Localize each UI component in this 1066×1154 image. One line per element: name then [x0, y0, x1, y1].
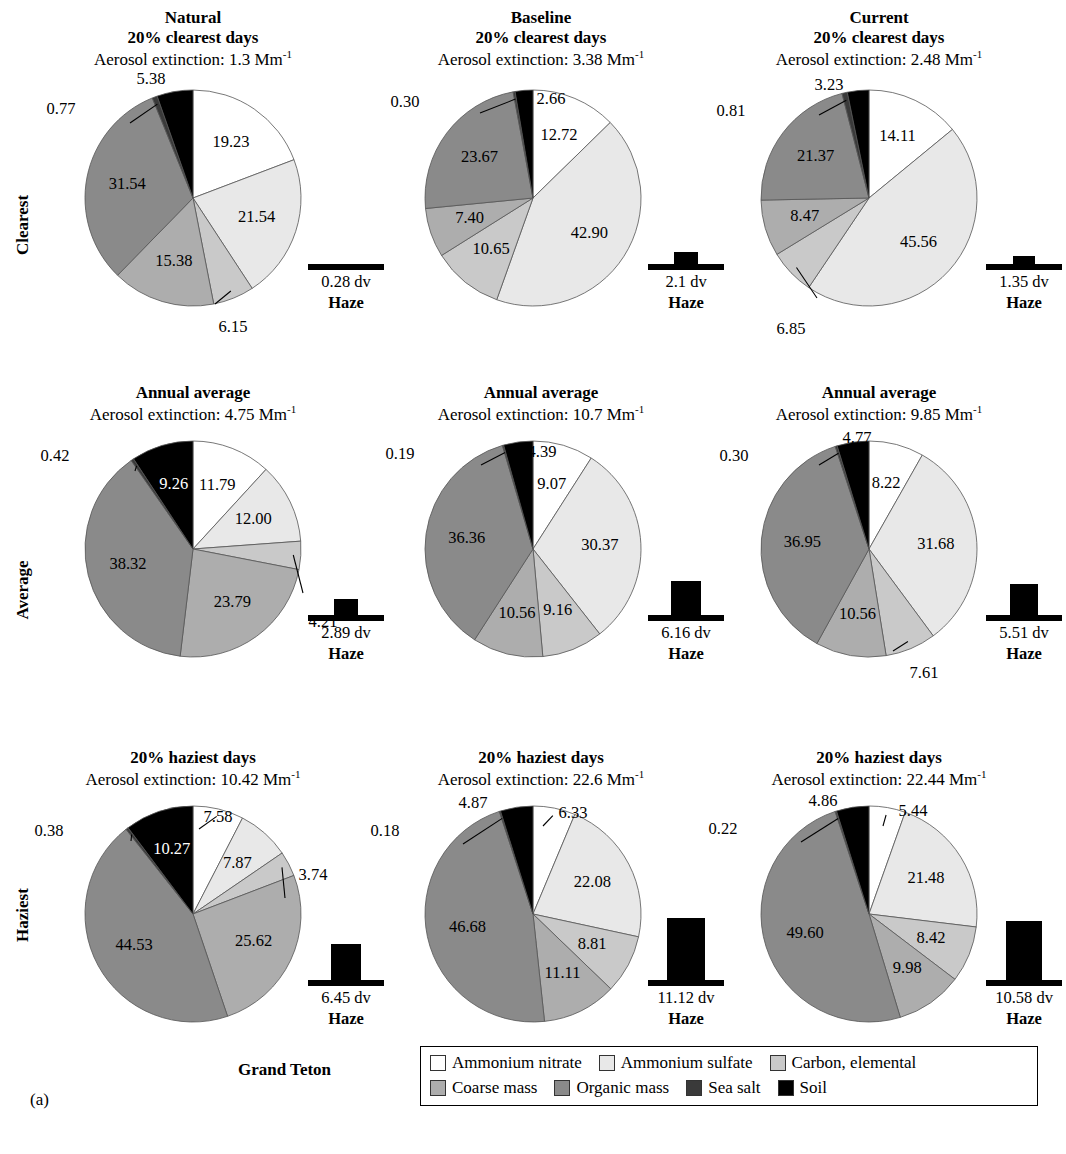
haze-baseline [986, 264, 1062, 270]
slice-value-label: 7.40 [455, 208, 484, 227]
slice-value-label: 31.54 [109, 174, 146, 193]
legend-swatch-icon [778, 1080, 794, 1096]
haze-bar [1010, 584, 1039, 615]
panel-titles: 20% haziest daysAerosol extinction: 10.4… [18, 748, 368, 790]
haze-indicator: 10.58 dvHaze [978, 921, 1066, 1029]
slice-value-label: 8.22 [872, 473, 901, 492]
slice-value-label: 19.23 [212, 132, 249, 151]
panel-extinction-title: Aerosol extinction: 4.75 Mm-1 [18, 403, 368, 425]
slice-value-label: 3.74 [299, 865, 328, 884]
haze-indicator: 1.35 dvHaze [978, 256, 1066, 313]
legend-swatch-icon [599, 1055, 615, 1071]
slice-value-label: 5.38 [137, 69, 166, 88]
slice-value-label: 36.95 [784, 532, 821, 551]
panel-days-title: Annual average [18, 383, 368, 403]
haze-baseline [986, 615, 1062, 621]
haze-bar-graphic [978, 256, 1066, 270]
panel-extinction-title: Aerosol extinction: 22.6 Mm-1 [366, 768, 716, 790]
legend-swatch-icon [686, 1080, 702, 1096]
slice-value-label: 0.30 [391, 92, 420, 111]
legend-item: Carbon, elemental [770, 1053, 917, 1073]
slice-value-label: 6.15 [219, 317, 248, 336]
slice-value-label: 10.56 [839, 604, 876, 623]
panel-extinction-title: Aerosol extinction: 10.42 Mm-1 [18, 768, 368, 790]
haze-bar [674, 252, 697, 264]
panel-titles: 20% haziest daysAerosol extinction: 22.4… [704, 748, 1054, 790]
slice-value-label: 6.85 [777, 319, 806, 338]
panel-extinction-title: Aerosol extinction: 22.44 Mm-1 [704, 768, 1054, 790]
haze-word-label: Haze [978, 293, 1066, 313]
panel-extinction-title: Aerosol extinction: 10.7 Mm-1 [366, 403, 716, 425]
pie-panel: Current20% clearest daysAerosol extincti… [704, 8, 1054, 70]
panel-titles: Baseline20% clearest daysAerosol extinct… [366, 8, 716, 70]
slice-value-label: 9.98 [893, 958, 922, 977]
slice-value-label: 21.48 [907, 868, 944, 887]
label-leader-line [131, 834, 132, 841]
slice-value-label: 3.23 [815, 75, 844, 94]
site-label: Grand Teton [238, 1060, 331, 1080]
slice-value-label: 5.44 [899, 801, 928, 820]
slice-value-label: 23.79 [214, 592, 251, 611]
haze-value: 1.35 dv [978, 272, 1066, 292]
legend-item: Coarse mass [430, 1078, 537, 1098]
legend-item: Organic mass [554, 1078, 669, 1098]
slice-value-label: 0.81 [717, 101, 746, 120]
legend-item: Soil [778, 1078, 827, 1098]
slice-value-label: 0.19 [386, 444, 415, 463]
legend-item: Ammonium sulfate [599, 1053, 753, 1073]
panel-extinction-title: Aerosol extinction: 2.48 Mm-1 [704, 48, 1054, 70]
slice-value-label: 9.26 [159, 474, 188, 493]
panel-days-title: 20% haziest days [18, 748, 368, 768]
slice-value-label: 0.22 [709, 819, 738, 838]
legend-label: Sea salt [708, 1078, 760, 1098]
haze-baseline [986, 980, 1062, 986]
slice-value-label: 7.61 [910, 663, 939, 682]
legend-swatch-icon [554, 1080, 570, 1096]
slice-value-label: 12.00 [235, 509, 272, 528]
haze-bar [334, 599, 359, 615]
slice-value-label: 10.56 [498, 603, 535, 622]
slice-value-label: 8.81 [578, 934, 607, 953]
slice-value-label: 25.62 [235, 931, 272, 950]
slice-value-label: 12.72 [540, 125, 577, 144]
slice-value-label: 10.27 [153, 839, 190, 858]
slice-value-label: 0.42 [41, 446, 70, 465]
pie-panel: 20% haziest daysAerosol extinction: 10.4… [18, 748, 368, 790]
pie-panel: 20% haziest daysAerosol extinction: 22.6… [366, 748, 716, 790]
slice-value-label: 7.87 [223, 853, 252, 872]
figure-tag: (a) [30, 1090, 49, 1110]
panel-titles: Annual averageAerosol extinction: 10.7 M… [366, 383, 716, 425]
legend-item: Sea salt [686, 1078, 760, 1098]
legend-row-1: Ammonium nitrateAmmonium sulfateCarbon, … [430, 1053, 1028, 1073]
pie-panel: 20% haziest daysAerosol extinction: 22.4… [704, 748, 1054, 790]
panel-extinction-title: Aerosol extinction: 3.38 Mm-1 [366, 48, 716, 70]
slice-value-label: 46.68 [449, 917, 486, 936]
haze-value: 5.51 dv [978, 623, 1066, 643]
legend-label: Coarse mass [452, 1078, 537, 1098]
slice-value-label: 0.30 [720, 446, 749, 465]
slice-value-label: 8.42 [917, 928, 946, 947]
slice-value-label: 15.38 [155, 251, 192, 270]
slice-value-label: 21.37 [797, 146, 834, 165]
slice-value-label: 8.47 [790, 206, 819, 225]
panel-titles: Annual averageAerosol extinction: 4.75 M… [18, 383, 368, 425]
panel-scenario-title: Natural [18, 8, 368, 28]
haze-bar-graphic [978, 921, 1066, 986]
slice-value-label: 0.77 [47, 99, 76, 118]
panel-days-title: Annual average [704, 383, 1054, 403]
slice-value-label: 23.67 [461, 147, 498, 166]
legend-swatch-icon [430, 1055, 446, 1071]
legend-label: Soil [800, 1078, 827, 1098]
haze-word-label: Haze [978, 644, 1066, 664]
slice-value-label: 4.39 [528, 442, 557, 461]
legend-swatch-icon [770, 1055, 786, 1071]
panel-titles: 20% haziest daysAerosol extinction: 22.6… [366, 748, 716, 790]
slice-value-label: 11.11 [545, 963, 581, 982]
slice-value-label: 31.68 [917, 534, 954, 553]
panel-days-title: 20% clearest days [704, 28, 1054, 48]
legend-label: Ammonium nitrate [452, 1053, 582, 1073]
slice-value-label: 4.87 [459, 793, 488, 812]
legend: Ammonium nitrateAmmonium sulfateCarbon, … [420, 1046, 1038, 1106]
haze-indicator: 5.51 dvHaze [978, 584, 1066, 664]
